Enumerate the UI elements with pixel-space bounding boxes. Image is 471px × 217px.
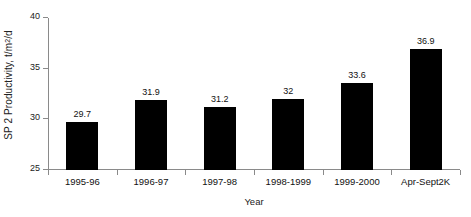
y-axis-tick-label: 25 <box>30 163 40 173</box>
x-axis-tick <box>185 170 186 175</box>
bar-value-label: 31.2 <box>211 94 229 104</box>
x-axis-category-label: 1999-2000 <box>323 176 392 187</box>
bar-value-label: 31.9 <box>142 87 160 97</box>
bar-value-label: 32 <box>283 86 293 96</box>
bar-slot: 31.9 <box>117 18 186 170</box>
y-axis-tick-label: 40 <box>30 11 40 21</box>
x-axis-tick <box>48 170 49 175</box>
bar-series: 29.731.931.23233.636.9 <box>48 18 460 170</box>
y-axis-title-text: SP 2 Productivity, t/m <box>3 43 14 140</box>
plot-area: 25303540 29.731.931.23233.636.9 <box>48 18 460 170</box>
x-axis-tick <box>254 170 255 175</box>
x-axis-category-label: Apr-Sept2K <box>391 176 460 187</box>
x-axis-category-label: 1997-98 <box>185 176 254 187</box>
bar-value-label: 36.9 <box>417 36 435 46</box>
x-axis-tick <box>117 170 118 175</box>
x-axis-tick <box>391 170 392 175</box>
bar-slot: 29.7 <box>48 18 117 170</box>
bar[interactable] <box>204 107 236 170</box>
bar-value-label: 29.7 <box>74 109 92 119</box>
x-axis-category-labels: 1995-961996-971997-981998-19991999-2000A… <box>48 176 460 192</box>
bar-value-label: 33.6 <box>348 70 366 80</box>
bar-slot: 33.6 <box>323 18 392 170</box>
bar-slot: 32 <box>254 18 323 170</box>
bar-chart: SP 2 Productivity, t/m2/d 25303540 29.73… <box>0 0 471 217</box>
bar-slot: 31.2 <box>185 18 254 170</box>
bar-slot: 36.9 <box>391 18 460 170</box>
bar[interactable] <box>341 83 373 170</box>
bar[interactable] <box>410 49 442 170</box>
bar[interactable] <box>272 99 304 170</box>
y-axis-tick-label: 35 <box>30 62 40 72</box>
x-axis-category-label: 1998-1999 <box>254 176 323 187</box>
x-axis-category-label: 1995-96 <box>48 176 117 187</box>
bar[interactable] <box>135 100 167 170</box>
y-axis-title: SP 2 Productivity, t/m2/d <box>0 0 16 170</box>
x-axis-tick <box>460 170 461 175</box>
bar[interactable] <box>66 122 98 170</box>
y-axis-tick-label: 30 <box>30 112 40 122</box>
x-axis-title: Year <box>48 196 460 207</box>
x-axis-tick <box>323 170 324 175</box>
x-axis-category-label: 1996-97 <box>117 176 186 187</box>
y-axis-title-tail: /d <box>3 30 14 39</box>
